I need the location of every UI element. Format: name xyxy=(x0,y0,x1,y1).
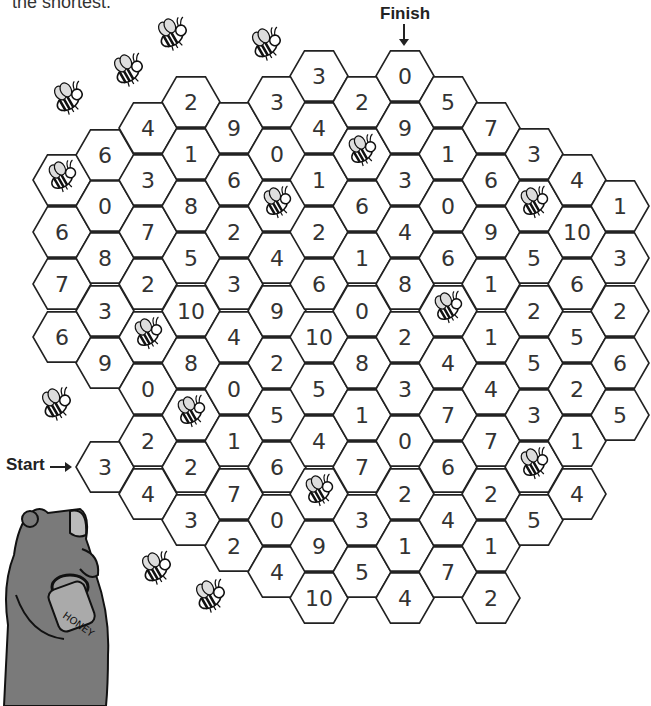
hex-number: 6 xyxy=(227,168,241,193)
hex-number: 4 xyxy=(570,482,584,507)
hex-number: 3 xyxy=(527,403,541,428)
hex-number: 5 xyxy=(312,377,326,402)
hex-number: 2 xyxy=(570,377,584,402)
hex-number: 7 xyxy=(441,560,455,585)
hex-number: 3 xyxy=(98,299,112,324)
hex-number: 2 xyxy=(141,272,155,297)
hex-number: 9 xyxy=(312,534,326,559)
hex-number: 4 xyxy=(398,220,412,245)
hex-number: 7 xyxy=(55,272,69,297)
hex-number: 3 xyxy=(398,377,412,402)
hex-number: 6 xyxy=(312,272,326,297)
hex-number: 1 xyxy=(484,534,498,559)
hex-number: 2 xyxy=(270,351,284,376)
hex-number: 1 xyxy=(184,142,198,167)
hex-number: 1 xyxy=(613,194,627,219)
hex-number: 2 xyxy=(398,482,412,507)
hex-number: 5 xyxy=(570,325,584,350)
hex-number: 6 xyxy=(441,246,455,271)
hex-number: 4 xyxy=(227,325,241,350)
hex-number: 1 xyxy=(441,142,455,167)
hex-number: 6 xyxy=(484,168,498,193)
hex-number: 6 xyxy=(441,455,455,480)
hex-number: 2 xyxy=(312,220,326,245)
hex-number: 4 xyxy=(398,586,412,611)
hex-number: 0 xyxy=(270,508,284,533)
hex-number: 4 xyxy=(270,246,284,271)
hex-number: 10 xyxy=(305,325,333,350)
bee-icon xyxy=(137,546,180,588)
hex-number: 3 xyxy=(527,142,541,167)
hex-number: 2 xyxy=(184,90,198,115)
hex-number: 10 xyxy=(177,299,205,324)
hex-number: 8 xyxy=(398,272,412,297)
hex-number: 9 xyxy=(484,220,498,245)
hex-number: 5 xyxy=(270,403,284,428)
hex-number: 4 xyxy=(570,168,584,193)
hex-number: 0 xyxy=(398,64,412,89)
bee-icon xyxy=(49,76,92,118)
hex-number: 3 xyxy=(184,508,198,533)
bee-icon xyxy=(191,574,234,616)
hex-number: 8 xyxy=(184,351,198,376)
hex-number: 1 xyxy=(355,246,369,271)
hex-number: 3 xyxy=(355,508,369,533)
hex-number: 4 xyxy=(312,116,326,141)
hex-number: 1 xyxy=(570,429,584,454)
hex-number: 0 xyxy=(227,377,241,402)
hex-number: 8 xyxy=(98,246,112,271)
hex-number: 7 xyxy=(141,220,155,245)
hex-number: 2 xyxy=(184,455,198,480)
hex-number: 5 xyxy=(441,90,455,115)
hex-number: 2 xyxy=(484,482,498,507)
hex-number: 6 xyxy=(270,455,284,480)
hex-number: 4 xyxy=(141,482,155,507)
hex-number: 5 xyxy=(527,508,541,533)
hex-number: 7 xyxy=(484,429,498,454)
hex-number: 10 xyxy=(563,220,591,245)
bee-icon xyxy=(153,12,196,54)
hex-number: 0 xyxy=(398,429,412,454)
hex-number: 2 xyxy=(141,429,155,454)
hex-number: 3 xyxy=(398,168,412,193)
hex-number: 2 xyxy=(227,534,241,559)
hex-number: 3 xyxy=(227,272,241,297)
hex-number: 7 xyxy=(227,482,241,507)
hex-number: 4 xyxy=(270,560,284,585)
hex-number: 1 xyxy=(355,403,369,428)
hex-number: 2 xyxy=(613,299,627,324)
hex-number: 1 xyxy=(484,272,498,297)
hex-number: 1 xyxy=(398,534,412,559)
hex-number: 3 xyxy=(270,90,284,115)
hex-number: 6 xyxy=(55,325,69,350)
hex-number: 9 xyxy=(98,351,112,376)
bear-with-honey-illustration: HONEY xyxy=(0,505,110,706)
hex-number: 3 xyxy=(312,64,326,89)
hex-number: 4 xyxy=(141,116,155,141)
hex-number: 10 xyxy=(305,586,333,611)
hex-number: 2 xyxy=(227,220,241,245)
hex-number: 2 xyxy=(398,325,412,350)
hex-number: 1 xyxy=(227,429,241,454)
hex-number: 5 xyxy=(355,560,369,585)
hex-number: 5 xyxy=(527,351,541,376)
bee-icon xyxy=(37,382,80,424)
bee-icon xyxy=(109,48,152,90)
hex-number: 0 xyxy=(270,142,284,167)
hex-number: 0 xyxy=(141,377,155,402)
hex-number: 4 xyxy=(441,351,455,376)
hex-number: 5 xyxy=(613,403,627,428)
hex-number: 6 xyxy=(55,220,69,245)
hex-number: 6 xyxy=(355,194,369,219)
hex-number: 5 xyxy=(184,246,198,271)
hex-number: 7 xyxy=(441,403,455,428)
hex-number: 0 xyxy=(355,299,369,324)
hex-number: 8 xyxy=(355,351,369,376)
hex-number: 6 xyxy=(613,351,627,376)
hex-number: 0 xyxy=(98,194,112,219)
hex-number: 4 xyxy=(484,377,498,402)
hex-number: 7 xyxy=(484,116,498,141)
hex-number: 1 xyxy=(484,325,498,350)
hex-number: 8 xyxy=(184,194,198,219)
hex-number: 0 xyxy=(441,194,455,219)
